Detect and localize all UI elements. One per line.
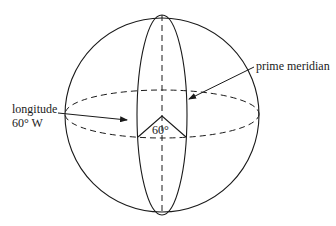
- prime-meridian-arrow: [189, 67, 254, 99]
- longitude-arrow: [58, 113, 127, 120]
- angle-label: 60°: [152, 123, 169, 137]
- sphere-diagram: 60° longitude 60° W prime meridian: [0, 0, 336, 226]
- longitude-value-label: 60° W: [12, 116, 44, 130]
- longitude-label: longitude: [12, 102, 57, 116]
- prime-meridian-label: prime meridian: [256, 59, 330, 73]
